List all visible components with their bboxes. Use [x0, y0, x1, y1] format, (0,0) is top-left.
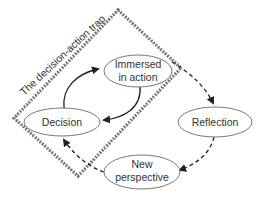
arrow-reflection-to-new-perspective: [180, 137, 214, 170]
arrow-immersed-to-reflection: [172, 62, 213, 103]
node-reflection: Reflection: [178, 107, 252, 137]
trap-boundary: [14, 10, 182, 177]
node-immersed-in-action: Immersed in action: [104, 55, 172, 87]
node-label: Decision: [42, 116, 82, 128]
node-label: perspective: [115, 171, 169, 183]
node-new-perspective: New perspective: [104, 155, 180, 189]
trap-label: The decision-action trap: [17, 12, 107, 97]
node-label: Immersed: [115, 58, 162, 70]
decision-action-diagram: The decision-action trap Immersed in act…: [0, 0, 264, 197]
node-label: in action: [118, 71, 157, 83]
node-decision: Decision: [24, 108, 100, 136]
node-label: Reflection: [192, 116, 239, 128]
arrow-decision-to-immersed: [64, 69, 98, 108]
node-label: New: [131, 158, 152, 170]
